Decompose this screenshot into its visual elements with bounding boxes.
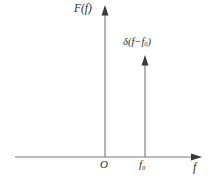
f0-subscript: 0: [142, 164, 145, 171]
impulse-arrowhead: [142, 55, 149, 66]
frequency-spectrum-figure: F(f) δ(f−f0) O f0 f: [0, 0, 215, 180]
origin-label: O: [100, 159, 108, 170]
horizontal-axis-label: f: [193, 161, 196, 173]
vertical-axis-label: F(f): [74, 3, 92, 15]
diagram-canvas: [0, 0, 215, 180]
f0-tick-label: f0: [139, 159, 145, 171]
impulse-annotation-label: δ(f−f0): [123, 37, 151, 48]
magnitude-axis-arrowhead: [102, 5, 109, 16]
close-paren: ): [148, 36, 152, 47]
